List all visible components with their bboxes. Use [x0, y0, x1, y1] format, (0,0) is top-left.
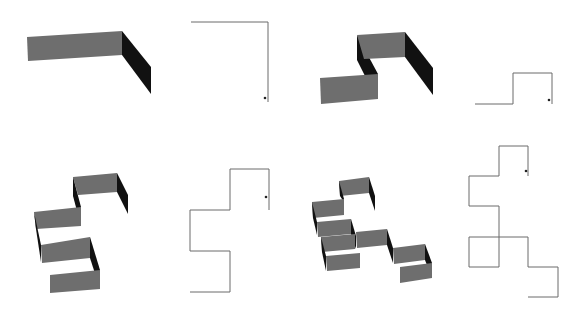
wall-side-panel	[122, 31, 151, 94]
wall-face-panel	[41, 237, 90, 263]
pair-1-start-dot	[264, 97, 267, 100]
wall-face-panel	[34, 207, 81, 229]
wall-face-panel	[356, 229, 387, 248]
wall-face-panel	[320, 74, 378, 104]
wall-side-panel	[405, 32, 433, 95]
wall-face-panel	[326, 253, 360, 271]
wall-face-panel	[339, 177, 369, 196]
pair-3-3d-walls	[34, 173, 128, 293]
pair-1-group	[27, 22, 268, 102]
wall-face-panel	[321, 234, 355, 252]
pair-4-2d-path	[469, 146, 558, 297]
wall-face-panel	[400, 263, 432, 283]
pair-3-2d-path	[190, 169, 269, 292]
wall-face-panel	[312, 199, 344, 218]
wall-side-panel	[369, 177, 375, 211]
wall-face-panel	[73, 173, 117, 195]
wall-face-panel	[50, 270, 100, 293]
wall-side-panel	[117, 173, 128, 214]
pair-1-2d-path	[191, 22, 268, 102]
pair-4-start-dot	[525, 170, 528, 173]
pair-1-3d-walls	[27, 31, 151, 94]
wall-face-panel	[357, 32, 405, 59]
pair-4-3d-walls	[312, 177, 432, 283]
pair-4-group	[312, 146, 558, 297]
wall-face-panel	[27, 31, 122, 61]
pair-2-start-dot	[548, 99, 551, 102]
figure-canvas	[0, 0, 579, 312]
wall-side-panel	[387, 229, 393, 263]
pair-2-2d-path	[475, 73, 552, 104]
wall-face-panel	[393, 244, 425, 264]
pair-2-3d-walls	[320, 32, 433, 104]
wall-face-panel	[317, 219, 351, 237]
pair-2-group	[320, 32, 552, 104]
pair-3-start-dot	[265, 196, 268, 199]
wall-and-path-figure	[0, 0, 579, 312]
pair-3-group	[34, 169, 269, 293]
